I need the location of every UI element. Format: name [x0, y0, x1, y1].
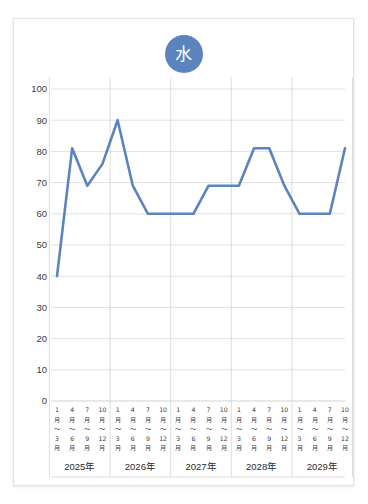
x-axis-year-label: 2025年 — [64, 461, 95, 472]
x-axis-separators — [49, 77, 352, 477]
gridlines — [51, 89, 345, 401]
x-axis-quarter-label: 7月～9月 — [327, 406, 333, 452]
x-axis-quarter-label: 7月～9月 — [145, 406, 151, 452]
x-axis-quarter-label: 10月～12月 — [341, 406, 349, 452]
x-axis-year-label: 2028年 — [246, 461, 277, 472]
y-axis-tick-label: 0 — [42, 395, 47, 406]
x-axis-quarter-label: 1月～3月 — [236, 406, 242, 452]
x-axis-quarter-label: 7月～9月 — [84, 406, 90, 452]
x-axis-quarter-label: 1月～3月 — [175, 406, 181, 452]
x-axis-quarter-label: 4月～6月 — [251, 406, 257, 452]
y-axis-tick-label: 60 — [36, 208, 47, 219]
y-axis-tick-labels: 0102030405060708090100 — [31, 83, 47, 406]
title-badge: 水 — [165, 35, 203, 73]
x-axis-quarter-label: 1月～3月 — [54, 406, 60, 452]
x-axis-year-label: 2029年 — [307, 461, 338, 472]
data-series-line — [57, 120, 345, 276]
y-axis-tick-label: 50 — [36, 239, 47, 250]
x-axis-quarter-label: 4月～6月 — [190, 406, 196, 452]
x-axis-quarter-label: 7月～9月 — [266, 406, 272, 452]
y-axis-tick-label: 30 — [36, 302, 47, 313]
x-axis-quarter-label: 4月～6月 — [130, 406, 136, 452]
x-axis-year-label: 2027年 — [185, 461, 216, 472]
x-axis-year-labels: 2025年2026年2027年2028年2029年 — [64, 461, 338, 472]
line-chart-plot: 0102030405060708090100 1月～3月4月～6月7月～9月10… — [14, 71, 355, 483]
x-axis-quarter-label: 10月～12月 — [99, 406, 107, 452]
x-axis-quarter-label: 10月～12月 — [280, 406, 288, 452]
x-axis-quarter-label: 4月～6月 — [69, 406, 75, 452]
y-axis-tick-label: 70 — [36, 177, 47, 188]
x-axis-quarter-label: 4月～6月 — [312, 406, 318, 452]
x-axis-year-label: 2026年 — [125, 461, 156, 472]
x-axis-quarter-label: 1月～3月 — [115, 406, 121, 452]
chart-card: 水 0102030405060708090100 1月～3月4月～6月7月～9月… — [13, 18, 354, 486]
y-axis-tick-label: 100 — [31, 83, 47, 94]
y-axis-tick-label: 40 — [36, 271, 47, 282]
x-axis-quarter-label: 10月～12月 — [220, 406, 228, 452]
x-axis-quarter-label: 1月～3月 — [297, 406, 303, 452]
x-axis-quarter-labels: 1月～3月4月～6月7月～9月10月～12月1月～3月4月～6月7月～9月10月… — [54, 406, 349, 452]
y-axis-tick-label: 90 — [36, 115, 47, 126]
x-axis-quarter-label: 7月～9月 — [206, 406, 212, 452]
x-axis-quarter-label: 10月～12月 — [159, 406, 167, 452]
y-axis-tick-label: 20 — [36, 333, 47, 344]
y-axis-tick-label: 10 — [36, 364, 47, 375]
y-axis-tick-label: 80 — [36, 146, 47, 157]
